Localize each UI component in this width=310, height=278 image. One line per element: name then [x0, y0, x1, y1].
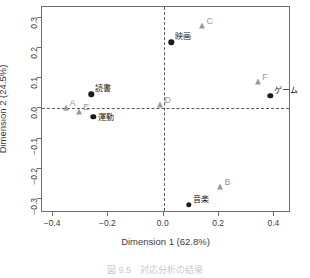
x-axis-tick-label: −0.4: [44, 218, 61, 228]
point-label: E: [83, 103, 89, 112]
figure-caption: 図 9.5 対応分析の結果: [0, 263, 310, 276]
y-axis-tick-label: 0.1: [29, 77, 39, 89]
x-axis-tick: [107, 212, 108, 216]
y-axis-tick-label: −0.2: [29, 168, 39, 185]
y-axis-tick-label: 0.2: [29, 47, 39, 59]
y-axis-tick-label: −0.1: [29, 138, 39, 155]
x-axis-tick: [52, 212, 53, 216]
point-label: F: [262, 73, 268, 82]
circle-marker-icon: [186, 202, 191, 207]
point-label: 映画: [175, 33, 191, 41]
x-axis-tick-label: 0.0: [157, 218, 169, 228]
plot-panel: 読書運動映画ゲーム音楽AEDCFB: [41, 6, 290, 212]
correspondence-analysis-figure: 読書運動映画ゲーム音楽AEDCFB −0.4−0.20.00.20.4−0.3−…: [0, 0, 310, 278]
circle-marker-icon: [89, 92, 94, 97]
y-axis-label: Dimension 2 (24.5%): [0, 65, 8, 154]
y-axis-tick-label: 0.0: [29, 107, 39, 119]
point-label: D: [164, 96, 171, 105]
triangle-marker-icon: [255, 79, 261, 85]
circle-marker-icon: [90, 114, 95, 119]
triangle-marker-icon: [157, 101, 163, 107]
circle-marker-icon: [169, 40, 174, 45]
circle-marker-icon: [268, 93, 273, 98]
x-axis-tick: [218, 212, 219, 216]
x-axis-tick: [163, 212, 164, 216]
point-label: C: [206, 17, 213, 26]
x-axis-tick-label: 0.4: [267, 218, 279, 228]
triangle-marker-icon: [217, 183, 223, 189]
x-axis-tick-label: 0.2: [212, 218, 224, 228]
triangle-marker-icon: [76, 109, 82, 115]
triangle-marker-icon: [199, 23, 205, 29]
y-axis-tick-label: 0.3: [29, 17, 39, 29]
point-label: 音楽: [193, 196, 209, 204]
point-label: A: [70, 99, 76, 108]
point-label: B: [224, 178, 230, 187]
point-label: 読書: [95, 85, 111, 93]
point-label: 運動: [98, 114, 114, 122]
point-label: ゲーム: [274, 87, 298, 95]
y-axis-tick-label: −0.3: [29, 198, 39, 215]
x-axis-tick-label: −0.2: [99, 218, 116, 228]
x-axis-label: Dimension 1 (62.8%): [41, 236, 290, 247]
x-axis-tick: [273, 212, 274, 216]
triangle-marker-icon: [63, 104, 69, 110]
